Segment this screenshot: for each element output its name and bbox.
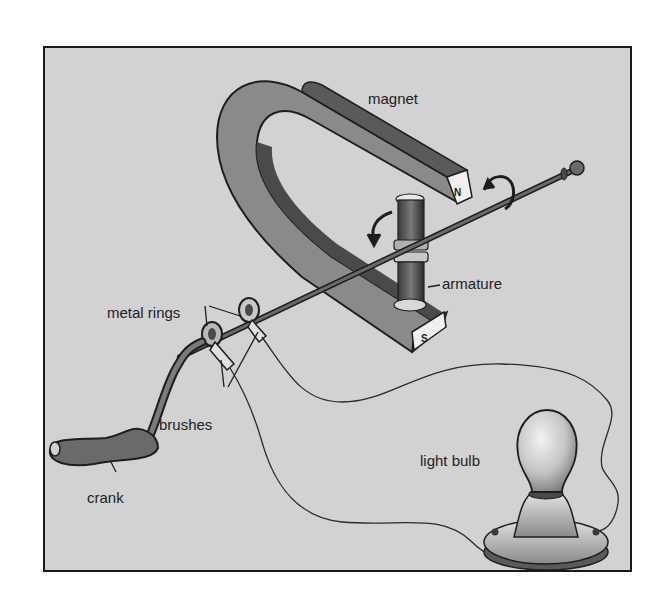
crank	[50, 342, 202, 465]
label-magnet: magnet	[368, 91, 418, 106]
diagram-frame: N S	[43, 46, 632, 572]
label-brushes: brushes	[159, 417, 212, 432]
label-armature: armature	[442, 276, 502, 291]
light-bulb	[484, 410, 608, 570]
north-pole-mark: N	[454, 187, 461, 198]
label-metal-rings: metal rings	[107, 305, 180, 320]
label-light-bulb: light bulb	[420, 453, 480, 468]
label-crank: crank	[87, 490, 124, 505]
south-pole-mark: S	[421, 333, 428, 344]
